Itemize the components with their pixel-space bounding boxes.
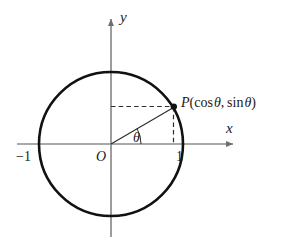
- unit-circle-figure: y x O −1 1 θ P(cosθ, sinθ): [0, 0, 283, 245]
- point-p-label: P(cosθ, sinθ): [181, 96, 256, 110]
- origin-label: O: [96, 150, 106, 164]
- point-p-marker: [171, 103, 177, 109]
- angle-theta-label: θ: [133, 131, 140, 145]
- x-tick-label-negative-one: −1: [16, 150, 31, 164]
- unit-circle-canvas: [0, 0, 283, 245]
- cos-function-name: cos: [194, 95, 213, 110]
- x-axis-label: x: [226, 121, 233, 136]
- point-p-name: P: [181, 95, 190, 110]
- cos-argument-theta: θ: [214, 95, 221, 110]
- point-p-comma: ,: [221, 95, 225, 110]
- sin-function-name: sin: [227, 95, 243, 110]
- radius-segment-op: [111, 108, 174, 145]
- y-axis-label: y: [120, 10, 127, 25]
- x-tick-label-one: 1: [176, 150, 183, 164]
- point-p-close-paren: ): [251, 95, 256, 110]
